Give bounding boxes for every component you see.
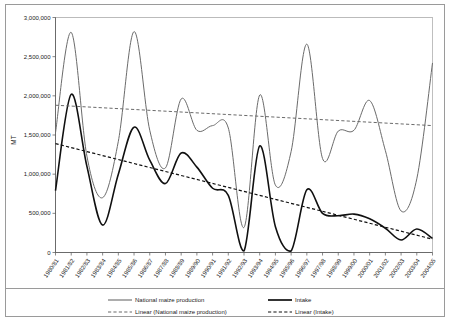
legend-label: Intake xyxy=(295,297,312,303)
y-tick-label: 2,000,000 xyxy=(24,93,51,99)
x-tick-label: 2004/05 xyxy=(419,257,437,279)
legend-label: National maize production xyxy=(135,297,204,303)
chart-figure: 3,000,0002,500,0002,000,0001,500,0001,00… xyxy=(0,0,450,323)
plot-area xyxy=(56,18,433,253)
x-axis-ticks xyxy=(56,253,433,256)
y-tick-label: 1,000,000 xyxy=(24,171,51,177)
y-axis-title: MT xyxy=(10,135,17,144)
y-axis-ticks xyxy=(53,18,56,253)
y-tick-label: 1,500,000 xyxy=(24,132,51,138)
y-tick-label: 2,500,000 xyxy=(24,54,51,60)
chart-legend: National maize productionIntakeLinear (N… xyxy=(108,297,334,315)
x-axis-tick-labels: 1980/811981/821982/831983/841984/851985/… xyxy=(42,257,437,279)
legend-label: Linear (National maize production) xyxy=(135,309,227,315)
y-tick-label: 0 xyxy=(47,250,51,256)
legend-label: Linear (Intake) xyxy=(295,309,334,315)
y-tick-label: 3,000,000 xyxy=(24,15,51,21)
line-chart: 3,000,0002,500,0002,000,0001,500,0001,00… xyxy=(0,0,450,323)
y-axis-tick-labels: 3,000,0002,500,0002,000,0001,500,0001,00… xyxy=(24,15,51,256)
y-tick-label: 500,000 xyxy=(29,210,51,216)
